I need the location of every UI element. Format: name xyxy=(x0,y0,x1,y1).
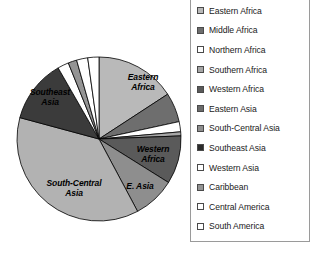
pie-slices-group xyxy=(17,57,181,221)
chart-root: Eastern AfricaWestern AfricaE. AsiaSouth… xyxy=(0,0,317,253)
pie-chart-area: Eastern AfricaWestern AfricaE. AsiaSouth… xyxy=(0,0,190,253)
legend-item-label: Eastern Africa xyxy=(209,6,262,16)
legend-item[interactable]: Southern Africa xyxy=(197,60,307,80)
legend-item[interactable]: Eastern Africa xyxy=(197,1,307,21)
legend-swatch-icon xyxy=(197,223,204,230)
legend-item-label: South America xyxy=(209,221,264,231)
legend-item-label: Southeast Asia xyxy=(209,143,266,153)
legend-item-label: Caribbean xyxy=(209,182,248,192)
legend-swatch-icon xyxy=(197,46,204,53)
legend-item-label: Middle Africa xyxy=(209,25,258,35)
legend-item[interactable]: South America xyxy=(197,217,307,237)
legend-item[interactable]: Caribbean xyxy=(197,177,307,197)
legend-item[interactable]: South-Central Asia xyxy=(197,119,307,139)
legend-item-label: Western Africa xyxy=(209,84,264,94)
legend-item-label: Central America xyxy=(209,202,269,212)
legend-item-label: South-Central Asia xyxy=(209,123,280,133)
legend-item[interactable]: Middle Africa xyxy=(197,21,307,41)
legend-swatch-icon xyxy=(197,164,204,171)
chart-legend: Eastern AfricaMiddle AfricaNorthern Afri… xyxy=(190,0,310,242)
legend-item[interactable]: Eastern Asia xyxy=(197,99,307,119)
legend-swatch-icon xyxy=(197,105,204,112)
legend-swatch-icon xyxy=(197,86,204,93)
legend-item[interactable]: Central America xyxy=(197,197,307,217)
legend-item-label: Western Asia xyxy=(209,163,259,173)
legend-swatch-icon xyxy=(197,203,204,210)
legend-item[interactable]: Southeast Asia xyxy=(197,138,307,158)
legend-item[interactable]: Northern Africa xyxy=(197,40,307,60)
legend-swatch-icon xyxy=(197,184,204,191)
legend-item-label: Eastern Asia xyxy=(209,104,257,114)
legend-item-label: Northern Africa xyxy=(209,45,266,55)
legend-item[interactable]: Western Asia xyxy=(197,158,307,178)
legend-item-label: Southern Africa xyxy=(209,65,267,75)
legend-swatch-icon xyxy=(197,144,204,151)
legend-swatch-icon xyxy=(197,66,204,73)
legend-swatch-icon xyxy=(197,27,204,34)
legend-item-list: Eastern AfricaMiddle AfricaNorthern Afri… xyxy=(197,1,307,236)
pie-chart-svg xyxy=(0,0,190,253)
legend-swatch-icon xyxy=(197,125,204,132)
legend-item[interactable]: Western Africa xyxy=(197,79,307,99)
legend-swatch-icon xyxy=(197,7,204,14)
